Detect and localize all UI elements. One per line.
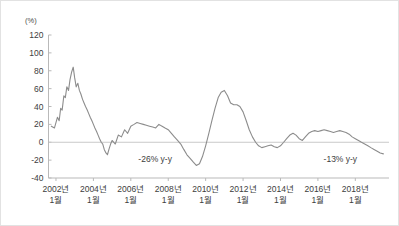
data-series-line [51, 67, 383, 165]
y-axis-tick-label: 40 [34, 102, 44, 112]
x-axis-tick-label-year: 2010년 [192, 184, 219, 194]
x-axis-tick-label-month: 1월 [162, 195, 175, 205]
x-axis-tick-label-month: 1월 [349, 195, 362, 205]
y-axis-tick-label: 0 [39, 137, 44, 147]
y-axis-tick-label: 60 [34, 84, 44, 94]
x-axis-tick-label-year: 2006년 [117, 184, 144, 194]
chart-annotation-label: -26% y-y [138, 154, 172, 164]
x-axis-tick-label-month: 1월 [124, 195, 137, 205]
line-chart: (%) 120100806040200-20-40 2002년1월2004년1월… [1, 1, 399, 226]
y-axis-tick-label: -40 [31, 173, 44, 183]
y-axis-tick-label: 80 [34, 66, 44, 76]
x-axis-tick-label-month: 1월 [87, 195, 100, 205]
y-axis-tick-label: -20 [31, 155, 44, 165]
x-axis-tick-label-year: 2008년 [155, 184, 182, 194]
x-axis-tick-label-year: 2014년 [267, 184, 294, 194]
x-axis-tick-label-year: 2016년 [304, 184, 331, 194]
y-axis-tick-label: 120 [29, 30, 43, 40]
x-axis-tick-label-year: 2004년 [80, 184, 107, 194]
x-axis-tick-label-month: 1월 [50, 195, 63, 205]
x-axis-tick-label-month: 1월 [312, 195, 325, 205]
chart-annotations: -26% y-y-13% y-y [138, 154, 358, 164]
x-axis-tick-label-year: 2012년 [230, 184, 257, 194]
chart-annotation-label: -13% y-y [324, 154, 358, 164]
x-axis-tick-label-year: 2002년 [43, 184, 70, 194]
y-axis-tick-labels: 120100806040200-20-40 [29, 30, 43, 183]
x-axis-tick-label-month: 1월 [199, 195, 212, 205]
x-axis-tick-label-month: 1월 [237, 195, 250, 205]
y-axis-unit-label: (%) [25, 16, 37, 25]
y-axis-tick-label: 100 [29, 48, 43, 58]
x-axis-tick-label-year: 2018년 [342, 184, 369, 194]
axis-unit-group: (%) [25, 16, 37, 25]
y-axis-tick-label: 20 [34, 119, 44, 129]
chart-figure: (%) 120100806040200-20-40 2002년1월2004년1월… [0, 0, 399, 226]
x-axis-tick-labels: 2002년1월2004년1월2006년1월2008년1월2010년1월2012년… [43, 184, 369, 205]
x-axis-tick-label-month: 1월 [274, 195, 287, 205]
